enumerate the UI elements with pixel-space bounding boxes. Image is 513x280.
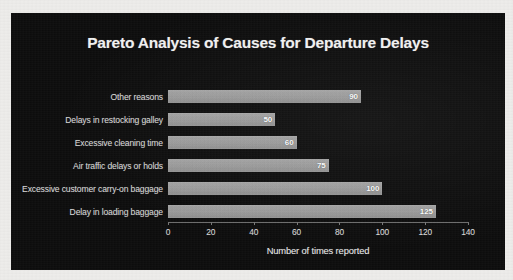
x-tick-mark <box>254 222 255 225</box>
x-tick-label: 60 <box>282 227 312 237</box>
bar: 75 <box>168 159 329 172</box>
category-label: Excessive cleaning time <box>11 138 163 148</box>
bar: 90 <box>168 90 361 103</box>
plot-area: Number of times reported Other reasons90… <box>11 13 505 270</box>
category-label: Air traffic delays or holds <box>11 161 163 171</box>
x-tick-mark <box>297 222 298 225</box>
x-tick-mark <box>168 222 169 225</box>
bar-value-label: 100 <box>366 182 379 195</box>
x-tick-mark <box>211 222 212 225</box>
x-tick-mark <box>382 222 383 225</box>
x-tick-mark <box>468 222 469 225</box>
x-axis-line <box>168 222 468 223</box>
category-label: Delays in restocking galley <box>11 115 163 125</box>
bar: 100 <box>168 182 382 195</box>
bar-value-label: 90 <box>349 90 358 103</box>
x-tick-label: 0 <box>153 227 183 237</box>
x-tick-label: 20 <box>196 227 226 237</box>
page-root: Pareto Analysis of Causes for Departure … <box>0 0 513 280</box>
x-tick-label: 140 <box>453 227 483 237</box>
x-tick-mark <box>339 222 340 225</box>
x-tick-mark <box>425 222 426 225</box>
bar-value-label: 125 <box>420 205 433 218</box>
x-tick-label: 40 <box>239 227 269 237</box>
bar: 60 <box>168 136 297 149</box>
category-label: Excessive customer carry-on baggage <box>11 184 163 194</box>
category-label: Other reasons <box>11 92 163 102</box>
x-tick-label: 80 <box>324 227 354 237</box>
chart-panel: Pareto Analysis of Causes for Departure … <box>11 13 505 270</box>
category-label: Delay in loading baggage <box>11 207 163 217</box>
x-axis-title: Number of times reported <box>168 245 468 256</box>
x-tick-label: 100 <box>367 227 397 237</box>
bar-value-label: 60 <box>285 136 294 149</box>
x-tick-label: 120 <box>410 227 440 237</box>
bar-value-label: 75 <box>317 159 326 172</box>
bar: 50 <box>168 113 275 126</box>
bar-value-label: 50 <box>263 113 272 126</box>
bar: 125 <box>168 205 436 218</box>
